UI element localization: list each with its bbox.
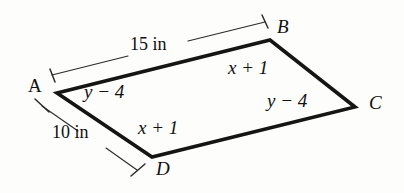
vertex-label-b: B bbox=[277, 17, 289, 36]
dimension-line-left-lower-segment bbox=[106, 148, 137, 170]
figure-canvas bbox=[0, 0, 404, 193]
dimension-line-top-left-segment bbox=[52, 56, 128, 75]
dimension-line-top-right-segment bbox=[188, 22, 265, 41]
vertex-label-c: C bbox=[369, 93, 382, 112]
parallelogram-figure: A B C D x + 1 x + 1 y − 4 y − 4 15 in 10… bbox=[0, 0, 404, 193]
dimension-tick-left-start bbox=[35, 99, 49, 112]
vertex-label-a: A bbox=[28, 76, 42, 95]
vertex-label-d: D bbox=[156, 159, 170, 178]
dimension-tick-left-end bbox=[131, 164, 145, 176]
dimension-label-left: 10 in bbox=[52, 123, 89, 141]
dimension-tick-top-start bbox=[50, 69, 55, 82]
dimension-label-top: 15 in bbox=[130, 35, 167, 53]
dimension-tick-top-end bbox=[262, 15, 268, 28]
edge-label-ab: x + 1 bbox=[228, 58, 268, 77]
edge-label-bc: y − 4 bbox=[267, 91, 307, 110]
edge-label-dc: x + 1 bbox=[138, 118, 178, 137]
edge-label-ad: y − 4 bbox=[84, 82, 124, 101]
